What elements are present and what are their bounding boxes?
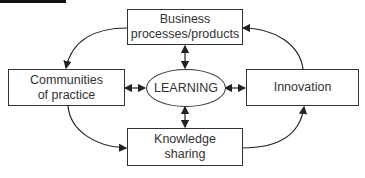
node-label: Business bbox=[160, 12, 211, 26]
node-knowledge-sharing: Knowledgesharing bbox=[127, 128, 243, 166]
node-label: sharing bbox=[164, 147, 205, 161]
node-label: processes/products bbox=[131, 27, 239, 41]
node-label: Innovation bbox=[274, 80, 332, 95]
node-business-processes: Businessprocesses/products bbox=[127, 9, 243, 45]
node-label: Knowledge bbox=[154, 132, 216, 146]
node-learning: LEARNING bbox=[146, 69, 226, 107]
center-label: LEARNING bbox=[154, 81, 218, 95]
node-innovation: Innovation bbox=[246, 69, 359, 106]
node-communities-of-practice: Communitiesof practice bbox=[8, 69, 125, 106]
node-label: Communities bbox=[30, 73, 103, 87]
node-label: of practice bbox=[38, 88, 96, 102]
